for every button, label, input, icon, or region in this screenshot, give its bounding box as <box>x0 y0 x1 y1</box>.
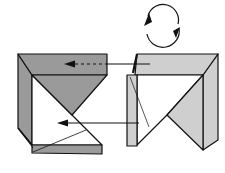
right-model <box>127 54 218 150</box>
left-model <box>18 54 107 154</box>
origami-diagram <box>0 0 225 173</box>
left-thin-strip <box>127 75 137 146</box>
rotate-symbol-icon <box>144 4 180 47</box>
bottom-strip <box>32 145 102 154</box>
